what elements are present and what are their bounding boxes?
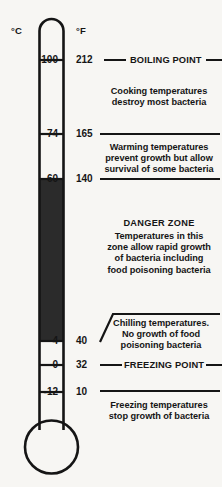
mercury-fill xyxy=(40,179,64,341)
celsius-unit-label: °C xyxy=(11,26,22,36)
freezing-point-rule-left xyxy=(100,364,122,366)
fahrenheit-unit-label: °F xyxy=(76,26,86,36)
tick-label-c-neg12: -12 xyxy=(44,387,58,397)
tick-label-c-60: 60 xyxy=(47,174,58,184)
chilling-zone-note: Chilling temperatures.No growth of foodp… xyxy=(104,318,218,352)
boiling-point-rule-right xyxy=(206,59,222,61)
tick-label-f-212: 212 xyxy=(76,55,93,65)
warming-zone-rule-top xyxy=(100,133,220,135)
tick-label-f-165: 165 xyxy=(76,129,93,139)
tick-label-f-10: 10 xyxy=(76,387,87,397)
boiling-point-label: BOILING POINT xyxy=(126,55,206,65)
thermometer-bulb xyxy=(25,421,78,474)
freezing-point-marker: FREEZING POINT xyxy=(100,360,220,370)
thermometer-diagram: °C °F 100 74 60 4 0 -12 212 165 140 40 3… xyxy=(0,0,222,487)
tick-label-f-40: 40 xyxy=(76,336,87,346)
cooking-zone-note: Cooking temperaturesdestroy most bacteri… xyxy=(98,86,220,108)
tick-label-c-4: 4 xyxy=(52,336,58,346)
boiling-point-marker: BOILING POINT xyxy=(104,55,220,65)
freezing-zone-note: Freezing temperaturesstop growth of bact… xyxy=(98,400,220,422)
tick-label-c-74: 74 xyxy=(47,129,58,139)
freezing-point-label: FREEZING POINT xyxy=(122,360,206,370)
warming-zone-rule-bottom xyxy=(100,178,220,180)
freezing-zone-rule-top xyxy=(100,390,220,392)
tick-label-c-100: 100 xyxy=(41,55,58,65)
boiling-point-rule-left xyxy=(104,59,126,61)
freezing-point-rule-right xyxy=(206,364,222,366)
tick-label-f-32: 32 xyxy=(76,360,87,370)
danger-zone-note: Temperatures in thiszone allow rapid gro… xyxy=(98,231,220,276)
warming-zone-note: Warming temperaturesprevent growth but a… xyxy=(98,142,220,176)
tick-label-c-0: 0 xyxy=(52,360,58,370)
danger-zone-title: DANGER ZONE xyxy=(98,218,220,229)
tick-label-f-140: 140 xyxy=(76,174,93,184)
